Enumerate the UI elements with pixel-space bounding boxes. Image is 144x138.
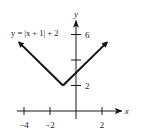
x-ticks: −4−22 xyxy=(19,107,104,130)
series-group xyxy=(19,42,107,85)
x-tick-label: −4 xyxy=(19,120,29,130)
y-ticks: 26 xyxy=(71,30,90,91)
x-axis-label: x xyxy=(124,106,129,116)
chart: x y −4−22 26 y = |x + 1| + 2 xyxy=(0,0,144,138)
x-tick-label: −2 xyxy=(45,120,55,130)
series-line-right-branch xyxy=(63,42,107,85)
y-tick-label: 2 xyxy=(85,81,90,91)
series-line-left-branch xyxy=(19,42,63,85)
y-tick-label: 6 xyxy=(85,30,90,40)
y-axis-label: y xyxy=(73,9,78,19)
equation-annotation: y = |x + 1| + 2 xyxy=(11,28,59,38)
x-tick-label: 2 xyxy=(100,120,105,130)
